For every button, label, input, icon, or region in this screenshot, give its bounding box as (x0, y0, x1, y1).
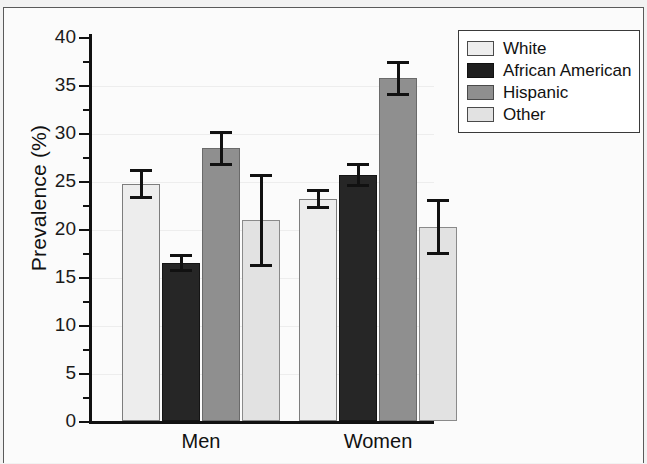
y-axis-label-10: 10 (32, 315, 76, 334)
y-tick-0 (79, 421, 89, 423)
y-tick-20 (79, 229, 89, 231)
legend-label-other: Other (503, 106, 546, 123)
errorbar-stem (437, 199, 440, 255)
y-axis-label-0: 0 (32, 411, 76, 430)
x-axis-label-men: Men (161, 430, 241, 453)
x-axis-line (89, 421, 434, 424)
legend-swatch-hispanic-icon (467, 85, 494, 100)
errorbar-men-other (242, 174, 280, 267)
errorbar-cap-top (387, 61, 409, 64)
errorbar-women-hispanic (379, 61, 417, 96)
y-tick-minor-7p5 (83, 349, 89, 351)
errorbar-cap-top (170, 254, 192, 257)
y-axis-label-40: 40 (32, 27, 76, 46)
y-tick-minor-37p5 (83, 61, 89, 63)
errorbar-cap-bottom (347, 184, 369, 187)
y-axis-line (89, 34, 92, 424)
errorbar-stem (260, 174, 263, 267)
y-tick-40 (79, 37, 89, 39)
legend-label-hispanic: Hispanic (503, 84, 568, 101)
errorbar-women-white (299, 189, 337, 209)
y-tick-5 (79, 373, 89, 375)
y-tick-minor-12p5 (83, 301, 89, 303)
plot-area: 40 35 30 25 20 15 10 5 0 Prevalence (%) (0, 0, 647, 464)
errorbar-women-other (419, 199, 457, 255)
bar-men-white (122, 184, 160, 421)
errorbar-cap-top (307, 189, 329, 192)
errorbar-cap-top (347, 163, 369, 166)
legend-item-white: White (467, 37, 631, 59)
legend-label-african-american: African American (503, 62, 632, 79)
errorbar-cap-top (130, 169, 152, 172)
legend-label-white: White (503, 40, 546, 57)
errorbar-cap-top (427, 199, 449, 202)
chart-legend: White African American Hispanic Other (458, 30, 640, 133)
figure-container: 40 35 30 25 20 15 10 5 0 Prevalence (%) (0, 0, 647, 464)
errorbar-men-hispanic (202, 131, 240, 166)
errorbar-cap-bottom (427, 252, 449, 255)
legend-swatch-white-icon (467, 41, 494, 56)
errorbar-stem (220, 131, 223, 166)
legend-item-african-american: African American (467, 59, 631, 81)
errorbar-cap-top (250, 174, 272, 177)
y-tick-minor-27p5 (83, 157, 89, 159)
errorbar-stem (140, 169, 143, 199)
y-tick-30 (79, 133, 89, 135)
errorbar-stem (397, 61, 400, 96)
errorbar-cap-top (210, 131, 232, 134)
y-tick-minor-17p5 (83, 253, 89, 255)
bar-men-african-american (162, 263, 200, 421)
errorbar-cap-bottom (387, 93, 409, 96)
legend-item-other: Other (467, 103, 631, 125)
y-tick-35 (79, 85, 89, 87)
bar-women-african-american (339, 175, 377, 421)
y-axis-label-5: 5 (32, 363, 76, 382)
legend-item-hispanic: Hispanic (467, 81, 631, 103)
bar-men-hispanic (202, 148, 240, 421)
errorbar-cap-bottom (130, 196, 152, 199)
y-tick-15 (79, 277, 89, 279)
y-tick-25 (79, 181, 89, 183)
errorbar-cap-bottom (210, 163, 232, 166)
bar-women-hispanic (379, 78, 417, 421)
errorbar-cap-bottom (307, 206, 329, 209)
legend-swatch-other-icon (467, 107, 494, 122)
errorbar-cap-bottom (250, 264, 272, 267)
y-tick-minor-22p5 (83, 205, 89, 207)
errorbar-women-african-american (339, 163, 377, 187)
y-axis-title: Prevalence (%) (27, 83, 51, 313)
errorbar-men-white (122, 169, 160, 199)
y-tick-minor-2p5 (83, 397, 89, 399)
bar-women-white (299, 199, 337, 421)
x-axis-label-women: Women (338, 430, 418, 453)
errorbar-men-african-american (162, 254, 200, 272)
bar-women-other (419, 227, 457, 421)
y-tick-minor-32p5 (83, 109, 89, 111)
y-tick-10 (79, 325, 89, 327)
legend-swatch-african-american-icon (467, 63, 494, 78)
errorbar-cap-bottom (170, 269, 192, 272)
